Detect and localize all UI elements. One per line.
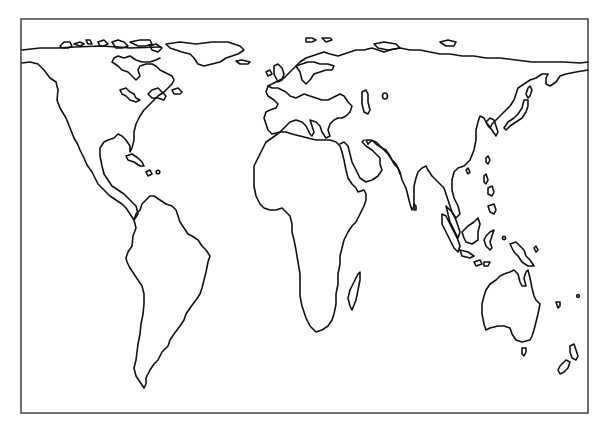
region-iceland: [236, 60, 250, 64]
region-caribbean: [126, 154, 160, 176]
region-east-asia-islands: [466, 156, 496, 214]
region-arabia: [340, 140, 400, 182]
region-north-america: [22, 46, 174, 220]
region-australia: [482, 270, 540, 342]
world-map: [0, 0, 609, 433]
region-new-guinea: [510, 242, 538, 266]
region-arctic-russia-islands: [306, 38, 456, 50]
region-south-america: [126, 196, 210, 388]
region-caspian-sea: [362, 90, 370, 114]
region-pacific-islands: [556, 295, 579, 308]
region-scandinavia: [296, 62, 334, 84]
region-tasmania: [522, 348, 526, 356]
region-europe-mediterranean: [264, 86, 352, 138]
region-madagascar: [348, 272, 360, 310]
region-southeast-asia: [442, 206, 490, 266]
region-indonesia: [462, 218, 506, 250]
map-frame: [21, 19, 588, 413]
region-greenland: [166, 42, 244, 66]
region-new-zealand: [558, 344, 578, 374]
region-sri-lanka: [414, 204, 416, 210]
region-aral-sea: [383, 93, 388, 99]
